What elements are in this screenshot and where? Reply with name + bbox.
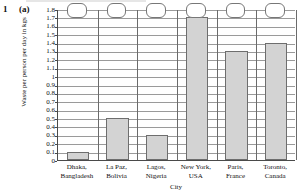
y-tick-label: 0.5: [46, 116, 55, 123]
x-tick-label-line: Canada: [251, 172, 299, 181]
y-tick-label: 1.3: [46, 48, 55, 55]
y-tick-mark: [55, 111, 57, 112]
y-tick-mark: [55, 18, 57, 19]
y-tick-label: 1.8: [46, 7, 55, 14]
y-tick-mark: [55, 44, 57, 45]
y-tick-mark: [55, 94, 57, 95]
y-tick-label: 0.4: [46, 124, 55, 131]
y-tick-mark: [55, 102, 57, 103]
y-tick-label: 0.3: [46, 132, 55, 139]
y-tick-label: 0.9: [46, 82, 55, 89]
x-tick-label: Toronto,Canada: [251, 163, 299, 180]
answer-box[interactable]: [226, 3, 246, 18]
y-tick-label: 0.7: [46, 99, 55, 106]
y-tick-label: 1.6: [46, 23, 55, 30]
y-tick-mark: [55, 144, 57, 145]
y-tick-label: 1.7: [46, 15, 55, 22]
y-tick-label: 1.1: [46, 65, 55, 72]
y-tick-mark: [55, 86, 57, 87]
y-tick-label: 1.5: [46, 32, 55, 39]
answer-box[interactable]: [265, 3, 285, 18]
y-tick-mark: [55, 35, 57, 36]
question-number: 1: [3, 4, 8, 14]
gridline-vertical: [296, 10, 297, 160]
y-tick-mark: [55, 119, 57, 120]
y-tick-label: 0.1: [46, 149, 55, 156]
y-axis-title: Waste per person per day in kgs: [20, 2, 28, 122]
y-tick-mark: [55, 136, 57, 137]
bar: [265, 43, 287, 160]
y-tick-label: 0.6: [46, 107, 55, 114]
y-tick-mark: [55, 161, 57, 162]
x-axis-title: City: [57, 183, 295, 191]
y-tick-label: 1.4: [46, 40, 55, 47]
bar-series: [58, 10, 295, 160]
answer-box[interactable]: [146, 3, 166, 18]
answer-box[interactable]: [67, 3, 87, 18]
y-tick-mark: [55, 27, 57, 28]
y-tick-mark: [55, 60, 57, 61]
answer-box[interactable]: [107, 3, 127, 18]
y-tick-mark: [55, 77, 57, 78]
y-tick-mark: [55, 10, 57, 11]
bar: [106, 118, 128, 160]
y-tick-mark: [55, 153, 57, 154]
bar: [146, 135, 168, 160]
y-tick-label: 1.2: [46, 57, 55, 64]
y-tick-label: 0.2: [46, 141, 55, 148]
chart-plot-area: [57, 10, 295, 161]
x-tick-label-line: Toronto,: [251, 163, 299, 172]
y-tick-mark: [55, 52, 57, 53]
worksheet-page: 1 (a) 00.10.20.30.40.50.60.70.80.911.11.…: [0, 0, 299, 192]
y-tick-label: 0.8: [46, 90, 55, 97]
bar: [186, 17, 208, 160]
bar: [67, 152, 89, 160]
y-tick-mark: [55, 69, 57, 70]
bar: [225, 51, 247, 160]
y-tick-mark: [55, 127, 57, 128]
answer-box[interactable]: [186, 3, 206, 18]
